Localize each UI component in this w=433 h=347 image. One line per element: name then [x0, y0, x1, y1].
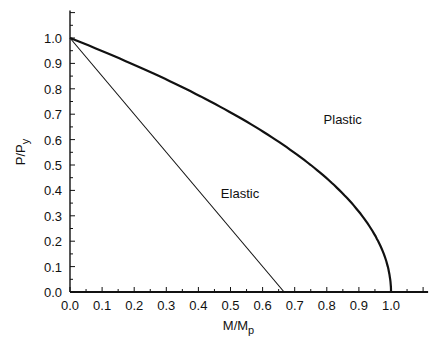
plastic-curve: [70, 38, 391, 292]
y-axis-title: P/Py: [13, 138, 31, 165]
y-tick-label: 0.6: [44, 133, 62, 148]
curves: [70, 38, 391, 292]
interaction-diagram: 0.00.10.20.30.40.50.60.70.80.91.00.00.10…: [0, 0, 433, 347]
y-tick-label: 1.0: [44, 31, 62, 46]
x-tick-label: 0.1: [93, 298, 111, 313]
y-tick-label: 0.5: [44, 158, 62, 173]
y-tick-label: 0.0: [44, 285, 62, 300]
elastic-curve: [70, 38, 284, 292]
y-tick-label: 0.8: [44, 82, 62, 97]
plastic-label: Plastic: [324, 112, 363, 127]
y-tick-label: 0.2: [44, 234, 62, 249]
x-tick-label: 0.7: [286, 298, 304, 313]
x-tick-label: 0.8: [318, 298, 336, 313]
y-tick-label: 0.1: [44, 260, 62, 275]
x-tick-label: 0.4: [189, 298, 207, 313]
labels: PlasticElastic: [221, 112, 363, 201]
x-axis-title: M/Mp: [223, 318, 254, 336]
elastic-label: Elastic: [221, 186, 260, 201]
y-tick-label: 0.9: [44, 56, 62, 71]
x-tick-label: 0.6: [254, 298, 272, 313]
y-tick-label: 0.7: [44, 107, 62, 122]
axes: 0.00.10.20.30.40.50.60.70.80.91.00.00.10…: [13, 11, 428, 336]
x-tick-label: 0.0: [61, 298, 79, 313]
y-tick-label: 0.4: [44, 183, 62, 198]
x-tick-label: 0.2: [125, 298, 143, 313]
x-tick-label: 0.5: [221, 298, 239, 313]
x-tick-label: 0.9: [350, 298, 368, 313]
x-tick-label: 1.0: [382, 298, 400, 313]
y-tick-label: 0.3: [44, 209, 62, 224]
x-tick-label: 0.3: [157, 298, 175, 313]
